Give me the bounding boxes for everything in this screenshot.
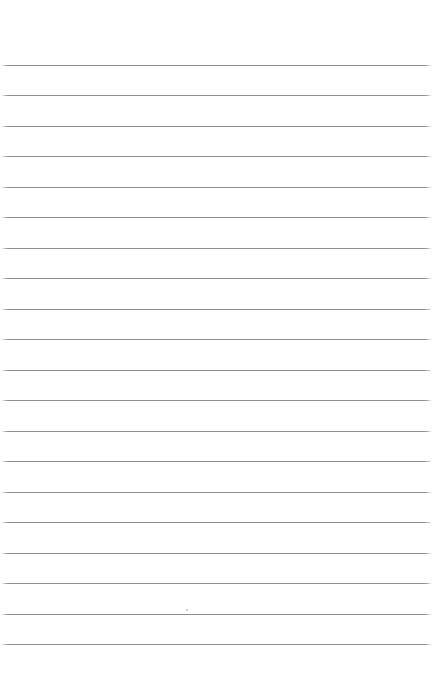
rule-line: [2, 65, 431, 66]
rule-line: [2, 553, 431, 554]
rule-line: [2, 400, 431, 401]
rule-line: [2, 187, 431, 188]
rule-line: [2, 339, 431, 340]
lined-paper-page: [0, 0, 435, 687]
rule-line: [2, 583, 431, 584]
rule-lines-group: [0, 0, 435, 687]
rule-line: [2, 309, 431, 310]
rule-line: [2, 126, 431, 127]
stray-speck-icon: [186, 609, 188, 611]
rule-line: [2, 522, 431, 523]
rule-line: [2, 614, 431, 615]
rule-line: [2, 217, 431, 218]
rule-line: [2, 461, 431, 462]
rule-line: [2, 431, 431, 432]
rule-line: [2, 156, 431, 157]
rule-line: [2, 95, 431, 96]
rule-line: [2, 644, 431, 645]
rule-line: [2, 370, 431, 371]
rule-line: [2, 278, 431, 279]
rule-line: [2, 492, 431, 493]
rule-line: [2, 248, 431, 249]
